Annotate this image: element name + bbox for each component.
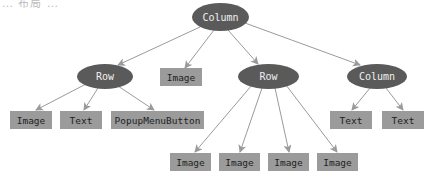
node-row-right-image-3: Image (268, 153, 309, 171)
node-column-right-text-1: Text (330, 111, 372, 129)
node-row-left-popupmenubutton: PopupMenuButton (111, 111, 204, 129)
node-column-right: Column (347, 64, 407, 89)
node-row-left-image: Image (10, 111, 52, 129)
node-row-right-image-2: Image (219, 153, 260, 171)
node-column-right-text-2: Text (382, 111, 424, 129)
node-root-column: Column (192, 3, 249, 31)
node-row-left-text: Text (60, 111, 102, 129)
node-row-right-image-4: Image (317, 153, 358, 171)
node-image-mid: Image (160, 68, 202, 86)
node-row-right: Row (238, 64, 299, 89)
node-row-left: Row (77, 64, 133, 89)
node-row-right-image-1: Image (170, 153, 211, 171)
